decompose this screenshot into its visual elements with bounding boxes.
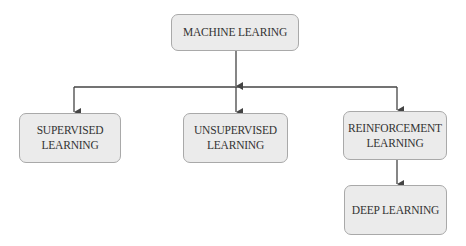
node-deep-learning: DEEP LEARNING bbox=[344, 185, 447, 235]
node-unsupervised-learning: UNSUPERVISED LEARNING bbox=[183, 113, 288, 163]
node-label: MACHINE LEARING bbox=[183, 25, 287, 40]
node-label: UNSUPERVISED LEARNING bbox=[194, 123, 277, 153]
node-label: DEEP LEARNING bbox=[352, 203, 439, 218]
node-supervised-learning: SUPERVISED LEARNING bbox=[19, 113, 121, 163]
node-machine-learning: MACHINE LEARING bbox=[171, 14, 299, 51]
node-reinforcement-learning: REINFORCEMENT LEARNING bbox=[343, 111, 447, 160]
node-label: REINFORCEMENT LEARNING bbox=[348, 121, 442, 151]
node-label: SUPERVISED LEARNING bbox=[37, 123, 104, 153]
